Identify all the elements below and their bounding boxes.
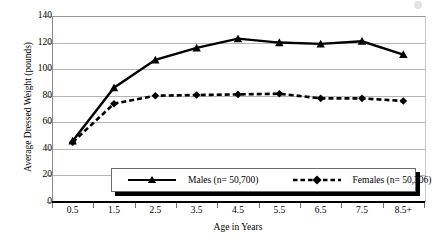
y-tick-label: 100 bbox=[12, 64, 52, 74]
x-tick-label: 6.5 bbox=[301, 205, 341, 216]
y-tick-label: 60 bbox=[12, 117, 52, 127]
gridline bbox=[53, 43, 425, 44]
x-tick-label: 7.5 bbox=[342, 205, 382, 216]
x-axis-title: Age in Years bbox=[52, 222, 424, 232]
x-axis-line bbox=[52, 201, 425, 203]
x-tick-mark bbox=[217, 203, 218, 208]
y-tick-label: 0 bbox=[12, 197, 52, 207]
y-tick-label: 20 bbox=[12, 170, 52, 180]
x-tick-mark bbox=[176, 203, 177, 208]
x-tick-label: 3.5 bbox=[177, 205, 217, 216]
x-tick-mark bbox=[424, 203, 425, 208]
legend-entry-males: Males (n= 50,700) bbox=[126, 174, 259, 186]
y-tick-label: 80 bbox=[12, 91, 52, 101]
x-tick-mark bbox=[52, 203, 53, 208]
x-tick-mark bbox=[383, 203, 384, 208]
legend-label-males: Males (n= 50,700) bbox=[188, 175, 259, 185]
gridline bbox=[53, 122, 425, 123]
scan-artifact-mark bbox=[414, 1, 422, 9]
gridline bbox=[53, 69, 425, 70]
x-tick-mark bbox=[300, 203, 301, 208]
y-tick-label: 140 bbox=[12, 11, 52, 21]
gridline bbox=[53, 96, 425, 97]
x-tick-mark bbox=[93, 203, 94, 208]
x-tick-mark bbox=[135, 203, 136, 208]
legend-swatch-males-icon bbox=[126, 174, 178, 186]
x-tick-label: 2.5 bbox=[135, 205, 175, 216]
legend-entry-females: Females (n= 50,306) bbox=[291, 174, 432, 186]
x-tick-mark bbox=[341, 203, 342, 208]
gridline bbox=[53, 16, 425, 17]
chart-legend: Males (n= 50,700) Females (n= 50,306) bbox=[111, 168, 416, 192]
legend-swatch-females-icon bbox=[291, 174, 343, 186]
x-tick-label: 4.5 bbox=[218, 205, 258, 216]
line-chart: Average Dressed Weight (pounds) 02040608… bbox=[0, 0, 441, 244]
x-tick-label: 5.5 bbox=[259, 205, 299, 216]
gridline bbox=[53, 149, 425, 150]
x-tick-label: 8.5+ bbox=[383, 205, 423, 216]
x-tick-label: 0.5 bbox=[53, 205, 93, 216]
y-axis-ticks: 020406080100120140 bbox=[0, 0, 52, 244]
x-tick-label: 1.5 bbox=[94, 205, 134, 216]
y-tick-label: 120 bbox=[12, 38, 52, 48]
y-tick-label: 40 bbox=[12, 144, 52, 154]
x-tick-mark bbox=[259, 203, 260, 208]
legend-label-females: Females (n= 50,306) bbox=[353, 175, 432, 185]
